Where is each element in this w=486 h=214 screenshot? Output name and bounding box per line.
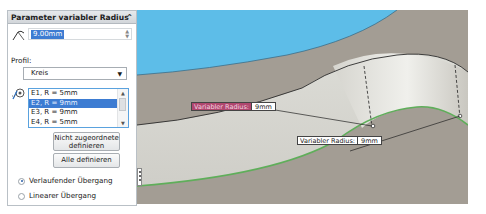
callout-value[interactable]: 9mm — [357, 137, 381, 144]
radio-unchecked-icon[interactable] — [18, 193, 25, 200]
define-all-button[interactable]: Alle definieren — [53, 153, 120, 168]
define-unassigned-button[interactable]: Nicht zugeordnete definieren — [53, 132, 120, 151]
list-item-edge[interactable]: E3, R = 9mm — [29, 108, 119, 118]
3d-viewport[interactable] — [137, 10, 468, 204]
panel-header: Parameter variabler Radius ⌃ — [8, 11, 136, 24]
radio-linear-label: Linearer Übergang — [29, 191, 96, 200]
variable-radius-panel: Parameter variabler Radius ⌃ 9.00mm ▲▼ P… — [7, 10, 137, 206]
variable-radius-callout[interactable]: Variabler Radius:9mm — [297, 136, 382, 145]
edge-settings-icon — [11, 87, 27, 101]
variable-radius-callout-active[interactable]: Variabler Radius:9mm — [191, 102, 276, 111]
scroll-down-icon[interactable]: ▼ — [118, 120, 128, 126]
chevron-down-icon: ▼ — [117, 68, 122, 79]
list-scrollbar[interactable]: ▲ ▼ — [117, 89, 128, 127]
radio-smooth-transition[interactable]: Verlaufender Übergang — [18, 176, 113, 186]
radius-icon — [12, 29, 26, 41]
list-item-edge[interactable]: E4, R = 5mm — [29, 118, 119, 128]
radio-linear-transition[interactable]: Linearer Übergang — [18, 191, 96, 201]
list-item-edge[interactable]: E1, R = 5mm — [29, 89, 119, 99]
panel-resize-handle[interactable] — [137, 168, 142, 186]
scroll-thumb[interactable] — [119, 98, 126, 111]
radio-checked-icon[interactable] — [18, 178, 25, 185]
callout-label: Variabler Radius: — [192, 103, 251, 110]
edge-list[interactable]: E1, R = 5mm E2, R = 9mm E3, R = 9mm E4, … — [28, 88, 129, 128]
list-item-edge-selected[interactable]: E2, R = 9mm — [29, 99, 119, 109]
model-view — [137, 10, 468, 204]
panel-title: Parameter variabler Radius — [11, 13, 129, 22]
radio-smooth-label: Verlaufender Übergang — [29, 176, 113, 185]
profile-label: Profil: — [11, 56, 31, 65]
radius-input[interactable]: 9.00mm ▲▼ — [28, 28, 132, 40]
profile-selected: Kreis — [31, 69, 48, 77]
button-label-line1: Nicht zugeordnete — [54, 134, 119, 142]
button-label-line2: definieren — [54, 142, 119, 150]
profile-select[interactable]: Kreis ▼ — [23, 67, 127, 80]
collapse-icon[interactable]: ⌃ — [126, 11, 133, 24]
callout-label: Variabler Radius: — [298, 137, 357, 144]
radius-spinner[interactable]: ▲▼ — [125, 29, 129, 39]
scroll-up-icon[interactable]: ▲ — [118, 90, 128, 96]
radius-value[interactable]: 9.00mm — [31, 30, 64, 39]
callout-value[interactable]: 9mm — [251, 103, 275, 110]
